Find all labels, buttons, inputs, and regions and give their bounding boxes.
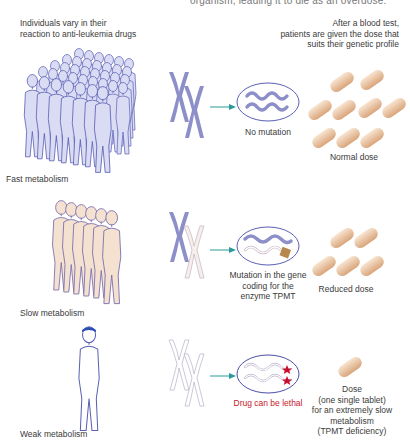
single-dose-label: Dose (one single tablet) for an extremel… [300,384,404,437]
tablet-icon [310,254,338,279]
tablet-icon [358,126,386,151]
single-dose-label-line: Dose [300,384,404,395]
tablet-icon [334,126,362,151]
tablet-icon [328,70,356,95]
right-caption: After a blood test, patients are given t… [199,18,399,50]
mutation-label-line: Mutation in the gene [218,270,318,281]
left-caption-line: reaction to anti-leukemia drugs [20,29,136,40]
tablet-icon [336,355,364,380]
cell-icon [235,80,301,124]
single-dose-label-line: (TPMT deficiency) [300,426,404,437]
tablet-icon [306,98,334,123]
tablet-icon [310,126,338,151]
left-caption-line: Individuals vary in their [20,18,136,29]
slow-metabolism-group [50,200,170,310]
normal-dose-label: Normal dose [316,152,392,163]
mutation-star-icon [282,376,292,385]
cut-off-header-text: organism, leading it to die as an overdo… [190,0,387,6]
tablet-icon [358,254,386,279]
cell-icon [235,224,301,268]
slow-metabolism-label: Slow metabolism [20,308,84,319]
right-caption-line: After a blood test, [199,18,399,29]
chromosome-icon [166,212,206,282]
weak-metabolism-person [72,326,112,436]
right-caption-line: suits their genetic profile [199,39,399,50]
tablet-icon [334,254,362,279]
chromosome-icon [166,340,206,410]
tablet-icon [328,226,356,251]
mutation-label-line: enzyme TPMT [218,291,318,302]
fast-metabolism-label: Fast metabolism [6,174,68,185]
single-dose-label-line: (one single tablet) [300,395,404,406]
tablet-icon [330,98,358,123]
mutation-star-icon [282,365,292,374]
single-dose-label-line: metabolism [300,416,404,427]
cell-icon [235,352,301,396]
mutation-label-line: coding for the [218,281,318,292]
reduced-dose-label: Reduced dose [304,284,388,295]
fast-metabolism-crowd [10,48,150,188]
no-mutation-label: No mutation [230,127,306,138]
single-tablet [330,353,370,383]
mutation-label: Mutation in the gene coding for the enzy… [218,270,318,302]
left-caption: Individuals vary in their reaction to an… [20,18,136,39]
tablet-icon [352,226,380,251]
chromosome-icon [166,72,206,142]
single-dose-label-line: for an extremely slow [300,405,404,416]
tablet-icon [356,96,384,121]
tablet-icon [358,68,386,93]
weak-metabolism-label: Weak metabolism [20,429,87,440]
tablet-icon [380,96,408,121]
right-caption-line: patients are given the dose that [199,29,399,40]
